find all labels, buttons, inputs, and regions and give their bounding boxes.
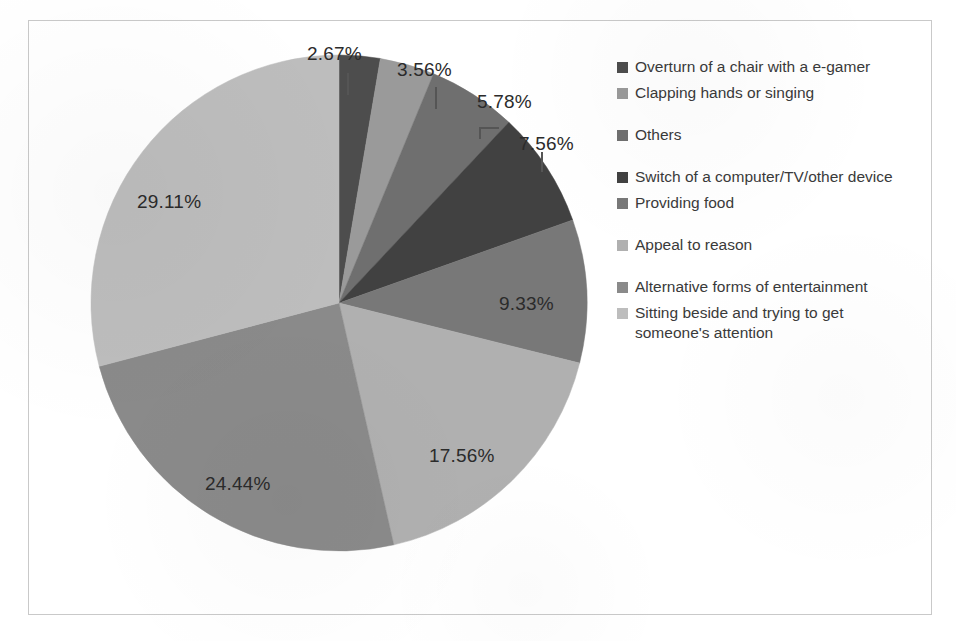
slice-label-5-78: 5.78% xyxy=(477,91,532,113)
legend-item-label: Alternative forms of entertainment xyxy=(635,277,868,297)
legend-spacer xyxy=(617,219,917,235)
legend-item[interactable]: Overturn of a chair with a e-gamer xyxy=(617,57,917,77)
slice-label-9-33: 9.33% xyxy=(499,293,554,315)
legend-swatch-icon xyxy=(617,198,628,209)
legend-swatch-icon xyxy=(617,130,628,141)
leader-line-slice-0 xyxy=(347,73,349,95)
pie-chart-area: 2.67% 3.56% 5.78% 7.56% 9.33% 17.56% 24.… xyxy=(29,21,629,616)
legend-item[interactable]: Others xyxy=(617,125,917,145)
legend-item-label: Sitting beside and trying to get someone… xyxy=(635,303,917,343)
legend-item[interactable]: Alternative forms of entertainment xyxy=(617,277,917,297)
legend-item[interactable]: Appeal to reason xyxy=(617,235,917,255)
legend-spacer xyxy=(617,109,917,125)
leader-line-slice-2b xyxy=(479,127,481,139)
legend-item[interactable]: Providing food xyxy=(617,193,917,213)
legend-item-label: Clapping hands or singing xyxy=(635,83,814,103)
slice-label-7-56: 7.56% xyxy=(519,133,574,155)
legend-item-label: Providing food xyxy=(635,193,734,213)
slice-label-17-56: 17.56% xyxy=(429,445,495,467)
legend-spacer xyxy=(617,261,917,277)
legend-item[interactable]: Sitting beside and trying to get someone… xyxy=(617,303,917,343)
slice-label-24-44: 24.44% xyxy=(205,473,271,495)
leader-line-slice-3 xyxy=(541,152,543,172)
legend-swatch-icon xyxy=(617,308,628,319)
legend-swatch-icon xyxy=(617,172,628,183)
legend-item-label: Others xyxy=(635,125,682,145)
legend-swatch-icon xyxy=(617,240,628,251)
legend-item-label: Switch of a computer/TV/other device xyxy=(635,167,893,187)
slice-label-3-56: 3.56% xyxy=(397,59,452,81)
legend-item-label: Appeal to reason xyxy=(635,235,752,255)
legend-item-label: Overturn of a chair with a e-gamer xyxy=(635,57,870,77)
slice-label-2-67: 2.67% xyxy=(307,43,362,65)
legend-item[interactable]: Clapping hands or singing xyxy=(617,83,917,103)
slice-label-29-11: 29.11% xyxy=(137,191,201,213)
legend-swatch-icon xyxy=(617,282,628,293)
leader-line-slice-1 xyxy=(435,87,437,109)
legend-item[interactable]: Switch of a computer/TV/other device xyxy=(617,167,917,187)
legend-swatch-icon xyxy=(617,88,628,99)
legend-spacer xyxy=(617,151,917,167)
legend-swatch-icon xyxy=(617,62,628,73)
chart-frame: 2.67% 3.56% 5.78% 7.56% 9.33% 17.56% 24.… xyxy=(28,20,932,615)
chart-legend: Overturn of a chair with a e-gamerClappi… xyxy=(617,57,917,349)
leader-line-slice-2 xyxy=(479,127,499,129)
